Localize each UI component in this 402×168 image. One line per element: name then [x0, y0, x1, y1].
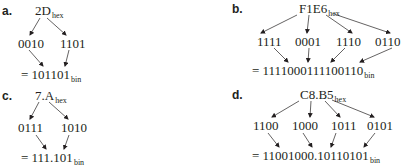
- panel-d-label: d.: [232, 88, 243, 102]
- panel-c-hex-value: 7.Ahex: [35, 89, 67, 107]
- panel-a-hex-value: 2Dhex: [35, 4, 63, 22]
- panel-d-nibble-2: 1000: [292, 119, 318, 132]
- panel-a-nibble-2: 1101: [60, 37, 86, 50]
- panel-c-result: = 111.101bin: [21, 151, 84, 168]
- panel-d-hex-value: C8.B5hex: [300, 88, 346, 106]
- panel-a-nibble-1: 0010: [18, 37, 44, 50]
- panel-a-result: = 101101bin: [21, 68, 81, 86]
- panel-a-label: a.: [2, 4, 12, 18]
- panel-b-nibble-2: 0001: [295, 35, 321, 48]
- panel-b-hex-value: F1E6hex: [299, 2, 340, 20]
- panel-d-result: = 11001000.10110101bin: [252, 149, 380, 167]
- panel-d-nibble-3: 1011: [331, 119, 357, 132]
- panel-d-nibble-4: 0101: [367, 119, 393, 132]
- panel-d-nibble-1: 1100: [253, 119, 279, 132]
- panel-c-nibble-2: 1010: [61, 121, 87, 134]
- panel-b-label: b.: [232, 2, 243, 16]
- panel-b-nibble-1: 1111: [257, 35, 282, 48]
- panel-b-nibble-3: 1110: [336, 35, 361, 48]
- panel-b-nibble-4: 0110: [375, 35, 401, 48]
- panel-c-nibble-1: 0111: [18, 121, 43, 134]
- panel-b-result: = 1111000111100110bin: [252, 64, 374, 82]
- panel-c-label: c.: [2, 89, 12, 103]
